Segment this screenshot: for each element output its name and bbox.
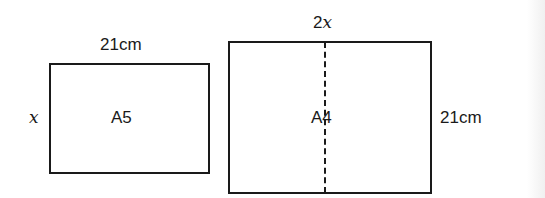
- a4-width-label: 2x: [313, 12, 332, 33]
- a5-name-label: A5: [111, 108, 132, 128]
- a4-width-var: x: [322, 12, 332, 32]
- a5-width-label: 21cm: [100, 35, 142, 55]
- page-edge-shadow: [527, 0, 545, 198]
- a5-height-label: x: [29, 107, 39, 127]
- a4-name-label: A4: [311, 108, 332, 128]
- a4-height-label: 21cm: [440, 108, 482, 128]
